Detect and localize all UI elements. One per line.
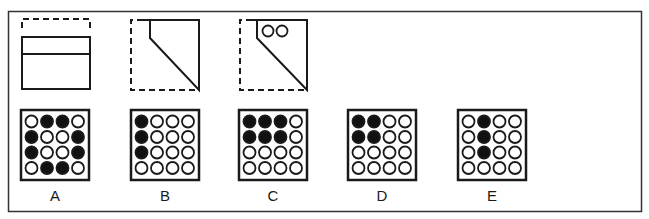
- filled-hole-icon: [353, 116, 365, 128]
- empty-hole-icon: [290, 147, 302, 159]
- empty-hole-icon: [57, 131, 69, 143]
- empty-hole-icon: [368, 147, 380, 159]
- filled-hole-icon: [136, 147, 148, 159]
- folded-shape: [143, 20, 199, 90]
- empty-hole-icon: [275, 147, 287, 159]
- empty-hole-icon: [72, 116, 84, 128]
- empty-hole-icon: [41, 147, 53, 159]
- filled-hole-icon: [41, 116, 53, 128]
- folded-shape: [252, 20, 307, 90]
- empty-hole-icon: [384, 116, 396, 128]
- empty-hole-icon: [167, 116, 179, 128]
- outer-frame: [9, 12, 642, 212]
- filled-hole-icon: [259, 131, 271, 143]
- filled-hole-icon: [478, 116, 490, 128]
- empty-hole-icon: [259, 162, 271, 174]
- empty-hole-icon: [259, 147, 271, 159]
- empty-hole-icon: [151, 147, 163, 159]
- fold-step-1: [22, 19, 90, 89]
- empty-hole-icon: [290, 116, 302, 128]
- filled-hole-icon: [368, 131, 380, 143]
- empty-hole-icon: [509, 116, 521, 128]
- empty-hole-icon: [182, 162, 194, 174]
- empty-hole-icon: [167, 162, 179, 174]
- filled-hole-icon: [136, 116, 148, 128]
- filled-hole-icon: [57, 116, 69, 128]
- filled-hole-icon: [136, 131, 148, 143]
- option-a[interactable]: [21, 110, 89, 180]
- puzzle-diagram: [0, 0, 649, 219]
- empty-hole-icon: [244, 162, 256, 174]
- empty-hole-icon: [290, 162, 302, 174]
- empty-hole-icon: [26, 162, 38, 174]
- filled-hole-icon: [353, 131, 365, 143]
- empty-hole-icon: [494, 162, 506, 174]
- option-label: C: [238, 187, 308, 204]
- filled-hole-icon: [72, 131, 84, 143]
- fold-step-2: [131, 20, 199, 90]
- empty-hole-icon: [509, 131, 521, 143]
- empty-hole-icon: [182, 147, 194, 159]
- empty-hole-icon: [463, 162, 475, 174]
- empty-hole-icon: [151, 116, 163, 128]
- filled-hole-icon: [478, 131, 490, 143]
- filled-hole-icon: [72, 147, 84, 159]
- punch-hole-icon: [263, 26, 274, 37]
- empty-hole-icon: [399, 131, 411, 143]
- option-label: A: [20, 187, 90, 204]
- empty-hole-icon: [399, 162, 411, 174]
- fold-step-3: [240, 20, 307, 90]
- empty-hole-icon: [463, 116, 475, 128]
- empty-hole-icon: [290, 131, 302, 143]
- empty-hole-icon: [353, 147, 365, 159]
- option-label: D: [347, 187, 417, 204]
- filled-hole-icon: [478, 147, 490, 159]
- empty-hole-icon: [167, 147, 179, 159]
- option-label: B: [130, 187, 200, 204]
- empty-hole-icon: [384, 162, 396, 174]
- empty-hole-icon: [494, 147, 506, 159]
- filled-hole-icon: [368, 116, 380, 128]
- empty-hole-icon: [275, 162, 287, 174]
- empty-hole-icon: [353, 162, 365, 174]
- filled-hole-icon: [244, 116, 256, 128]
- option-b[interactable]: [131, 110, 199, 180]
- empty-hole-icon: [182, 116, 194, 128]
- option-c[interactable]: [239, 110, 307, 180]
- empty-hole-icon: [399, 147, 411, 159]
- filled-hole-icon: [26, 131, 38, 143]
- empty-hole-icon: [151, 131, 163, 143]
- empty-hole-icon: [136, 162, 148, 174]
- filled-hole-icon: [26, 147, 38, 159]
- empty-hole-icon: [463, 147, 475, 159]
- option-label: E: [457, 187, 527, 204]
- empty-hole-icon: [509, 162, 521, 174]
- empty-hole-icon: [41, 131, 53, 143]
- empty-hole-icon: [384, 131, 396, 143]
- filled-hole-icon: [275, 116, 287, 128]
- option-e[interactable]: [458, 110, 526, 180]
- empty-hole-icon: [494, 116, 506, 128]
- punch-hole-icon: [277, 26, 288, 37]
- empty-hole-icon: [463, 131, 475, 143]
- empty-hole-icon: [26, 116, 38, 128]
- filled-hole-icon: [41, 162, 53, 174]
- empty-hole-icon: [509, 147, 521, 159]
- empty-hole-icon: [478, 162, 490, 174]
- empty-hole-icon: [182, 131, 194, 143]
- filled-hole-icon: [57, 162, 69, 174]
- empty-hole-icon: [244, 147, 256, 159]
- option-d[interactable]: [348, 110, 416, 180]
- empty-hole-icon: [151, 162, 163, 174]
- filled-hole-icon: [259, 116, 271, 128]
- filled-hole-icon: [244, 131, 256, 143]
- empty-hole-icon: [399, 116, 411, 128]
- empty-hole-icon: [167, 131, 179, 143]
- empty-hole-icon: [384, 147, 396, 159]
- empty-hole-icon: [72, 162, 84, 174]
- empty-hole-icon: [57, 147, 69, 159]
- dashed-original-edge: [22, 19, 90, 28]
- empty-hole-icon: [494, 131, 506, 143]
- empty-hole-icon: [368, 162, 380, 174]
- folded-rect: [22, 37, 90, 89]
